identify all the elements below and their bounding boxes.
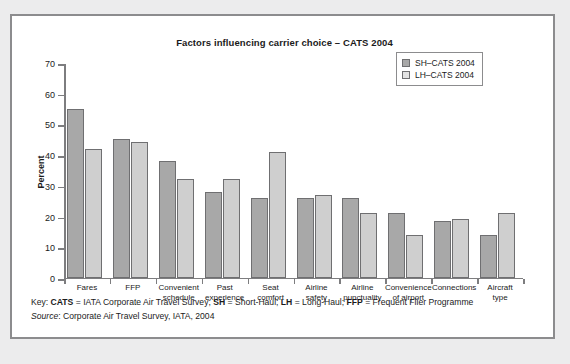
footer-key-lh: LH	[281, 297, 292, 307]
bar-group	[294, 63, 340, 278]
bar-sh	[113, 139, 130, 277]
plot-area: Percent 010203040506070 FaresFFPConvenie…	[64, 64, 523, 279]
legend-swatch-lh-icon	[402, 71, 410, 79]
bar-sh	[251, 198, 268, 278]
bar-group	[202, 63, 248, 278]
bar-sh	[67, 109, 84, 278]
footer-key-prefix: Key:	[31, 297, 51, 307]
bar-sh	[205, 192, 222, 278]
bar-lh	[452, 219, 469, 277]
y-tick-label: 30	[45, 182, 55, 192]
y-tick-label: 10	[45, 243, 55, 253]
chart-legend: SH–CATS 2004 LH–CATS 2004	[396, 52, 483, 86]
bar-group	[339, 63, 385, 278]
bar-sh	[297, 198, 314, 278]
footer-key-sh-text: = Short-Haul;	[225, 297, 281, 307]
legend-label-lh: LH–CATS 2004	[415, 70, 474, 80]
bar-sh	[342, 198, 359, 278]
bar-lh	[85, 149, 102, 278]
figure-footer: Key: CATS = IATA Corporate Air Travel Su…	[31, 295, 541, 323]
bar-sh	[480, 235, 497, 278]
y-tick-label: 20	[45, 213, 55, 223]
bar-group	[156, 63, 202, 278]
bar-lh	[177, 179, 194, 277]
legend-item-sh: SH–CATS 2004	[402, 57, 475, 69]
footer-key-lh-text: = Long-Haul;	[292, 297, 346, 307]
page-root: Factors influencing carrier choice – CAT…	[0, 0, 570, 364]
bar-group	[110, 63, 156, 278]
footer-key-sh: SH	[213, 297, 225, 307]
bar-lh	[223, 179, 240, 277]
bar-lh	[406, 235, 423, 278]
y-tick-label: 50	[45, 120, 55, 130]
bar-group	[431, 63, 477, 278]
bar-group	[64, 63, 110, 278]
footer-key-ffp-text: = Frequent Flier Programme	[363, 297, 474, 307]
bar-lh	[498, 213, 515, 278]
y-tick-label: 70	[45, 59, 55, 69]
legend-swatch-sh-icon	[402, 59, 410, 67]
bar-sh	[159, 161, 176, 278]
x-axis-label-line: Aircraft	[468, 283, 532, 293]
bar-lh	[131, 142, 148, 277]
chart-title: Factors influencing carrier choice – CAT…	[12, 37, 557, 48]
figure-panel: Factors influencing carrier choice – CAT…	[10, 14, 555, 339]
bar-group	[477, 63, 523, 278]
bar-sh	[388, 213, 405, 278]
legend-item-lh: LH–CATS 2004	[402, 69, 475, 81]
legend-label-sh: SH–CATS 2004	[415, 58, 475, 68]
y-tick-label: 60	[45, 90, 55, 100]
footer-key-cats: CATS	[51, 297, 74, 307]
footer-key-line: Key: CATS = IATA Corporate Air Travel Su…	[31, 295, 541, 309]
bar-lh	[269, 152, 286, 278]
bar-lh	[360, 213, 377, 278]
footer-key-cats-text: = IATA Corporate Air Travel Survey;	[73, 297, 213, 307]
bar-group	[385, 63, 431, 278]
bar-sh	[434, 221, 451, 278]
footer-source-text: : Corporate Air Travel Survey, IATA, 200…	[58, 311, 214, 321]
y-tick-label: 40	[45, 151, 55, 161]
footer-key-ffp: FFP	[347, 297, 363, 307]
bar-lh	[315, 195, 332, 278]
footer-source-label: Source	[31, 311, 58, 321]
footer-source-line: Source: Corporate Air Travel Survey, IAT…	[31, 309, 541, 323]
bar-group	[248, 63, 294, 278]
